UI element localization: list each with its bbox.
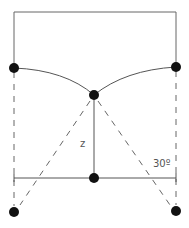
- right-dashed-diagonal: [98, 101, 170, 205]
- left-dashed-diagonal: [20, 101, 90, 205]
- node-right-bottom: [171, 206, 181, 216]
- right-arc: [94, 67, 176, 95]
- top-frame: [14, 12, 176, 68]
- height-label: z: [80, 138, 85, 149]
- node-left-top: [9, 63, 19, 73]
- left-arc: [14, 68, 94, 95]
- node-right-top: [171, 62, 181, 72]
- node-base-center: [89, 173, 99, 183]
- node-center: [89, 90, 99, 100]
- node-left-bottom: [9, 207, 19, 217]
- geometry-diagram: z 30º: [0, 0, 189, 228]
- angle-label: 30º: [153, 158, 171, 169]
